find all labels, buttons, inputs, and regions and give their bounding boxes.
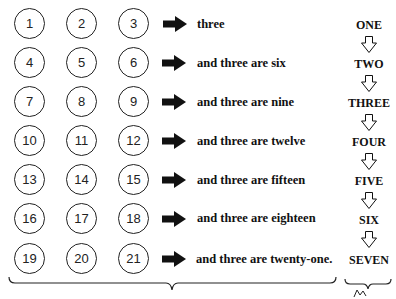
braces-layer: [0, 0, 396, 299]
bottom-right-curly-brace-icon: [345, 279, 391, 289]
three-times-table-diagram: 1 2 3 three ONE 4 5 6 and three are six …: [0, 0, 396, 299]
squiggle-mark-icon: [354, 290, 366, 297]
bottom-left-curly-brace-icon: [9, 277, 336, 290]
